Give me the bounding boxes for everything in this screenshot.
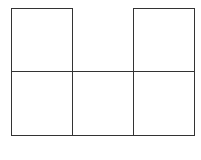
square-top-left xyxy=(11,8,73,72)
square-top-right xyxy=(133,8,195,72)
square-bottom-right xyxy=(133,71,195,136)
square-bottom-middle xyxy=(72,71,134,136)
square-bottom-left xyxy=(11,71,73,136)
